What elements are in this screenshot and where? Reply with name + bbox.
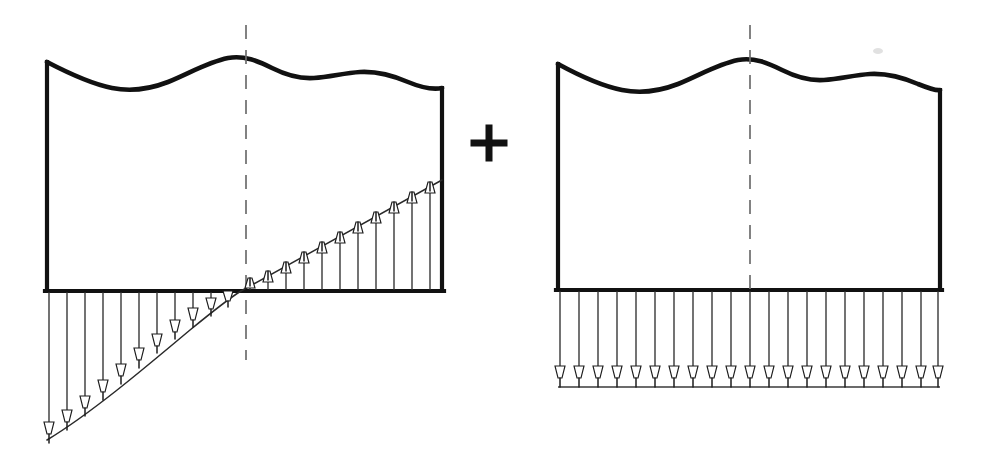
scan-artifact-speck <box>873 48 883 54</box>
load-arrow <box>840 291 850 387</box>
load-arrow <box>389 202 399 290</box>
load-arrow <box>116 292 126 384</box>
load-arrow <box>631 291 641 387</box>
load-arrow <box>188 292 198 327</box>
load-arrow <box>134 292 144 368</box>
load-arrow <box>764 291 774 387</box>
load-arrow <box>371 212 381 290</box>
right-break-line <box>558 59 940 92</box>
left-break-line <box>47 57 442 90</box>
load-arrow <box>859 291 869 387</box>
plus-operator-vertical-bar <box>486 125 493 162</box>
load-arrow <box>574 291 584 387</box>
load-arrow <box>593 291 603 387</box>
load-arrow <box>555 291 565 387</box>
load-arrow <box>688 291 698 387</box>
load-arrow <box>170 292 180 339</box>
load-arrow <box>897 291 907 387</box>
load-arrow <box>407 192 417 290</box>
load-arrow <box>62 292 72 430</box>
load-arrow <box>669 291 679 387</box>
left-pressure-envelope <box>47 180 442 440</box>
load-arrow <box>317 242 327 290</box>
load-arrow <box>933 291 943 387</box>
load-arrow <box>650 291 660 387</box>
load-arrow <box>745 291 755 387</box>
superposition-diagram-canvas <box>0 0 987 469</box>
left-panel <box>44 25 444 443</box>
load-arrow <box>80 292 90 416</box>
load-arrow <box>152 292 162 353</box>
load-arrow <box>726 291 736 387</box>
load-arrow <box>281 262 291 290</box>
load-arrow <box>206 292 216 316</box>
load-arrow <box>878 291 888 387</box>
right-uniform-load-arrows <box>555 291 943 387</box>
figure-root: Superposition of pressure distributions … <box>0 0 987 469</box>
load-arrow <box>299 252 309 290</box>
load-arrow <box>783 291 793 387</box>
right-panel <box>555 25 943 387</box>
load-arrow <box>223 291 233 307</box>
load-arrow <box>335 232 345 290</box>
load-arrow <box>353 222 363 290</box>
load-arrow <box>821 291 831 387</box>
load-arrow <box>707 291 717 387</box>
load-arrow <box>916 291 926 387</box>
load-arrow <box>425 182 435 290</box>
load-arrow <box>612 291 622 387</box>
plus-operator <box>471 125 508 162</box>
load-arrow <box>98 292 108 400</box>
left-downward-load-arrows <box>44 291 233 443</box>
load-arrow <box>802 291 812 387</box>
load-arrow <box>44 292 54 443</box>
